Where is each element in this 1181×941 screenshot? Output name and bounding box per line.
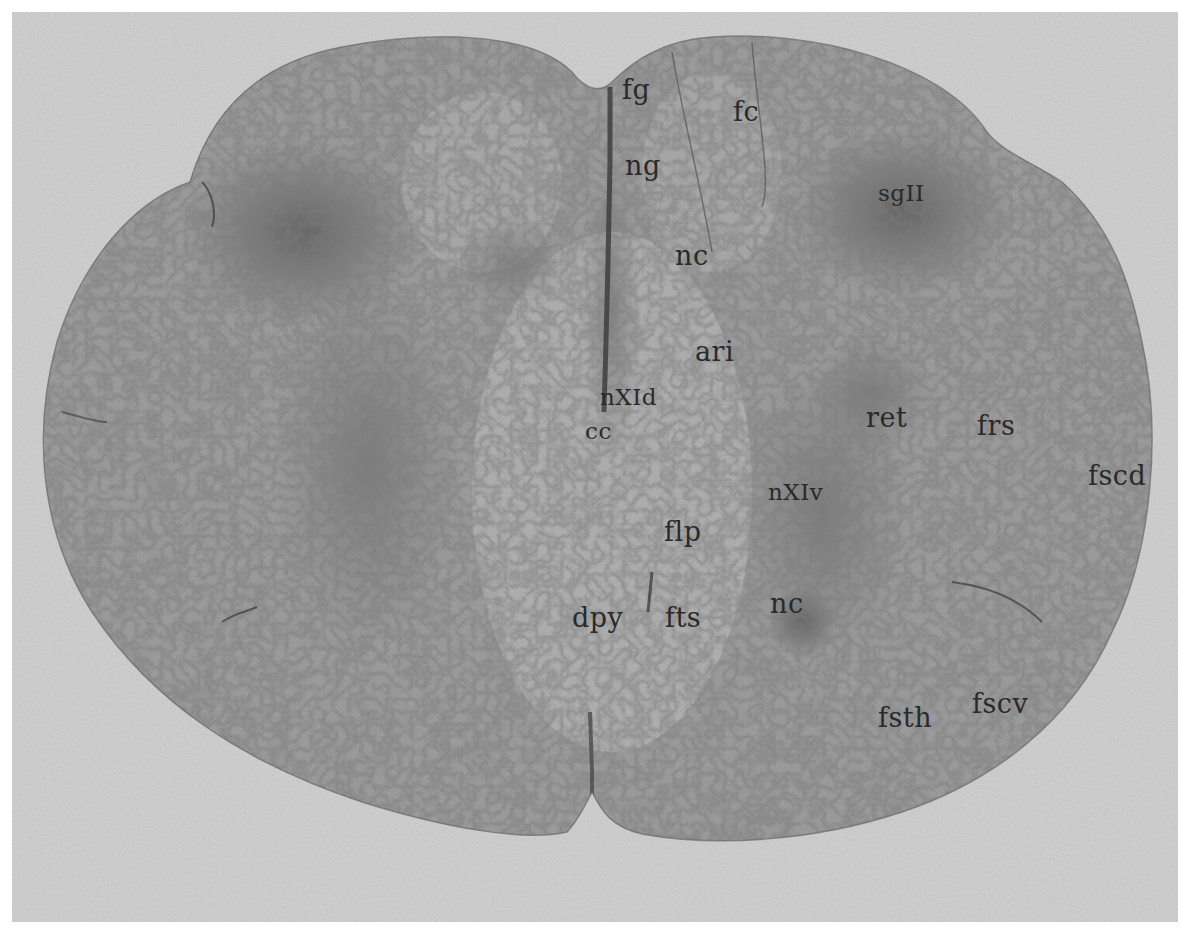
label-fc: fc [733,98,759,125]
label-ng: ng [625,152,661,179]
micrograph: fg fc ng sgII nc ari nXId cc ret frs fsc… [12,12,1178,922]
label-dpy: dpy [572,604,623,631]
label-sgII: sgII [878,182,925,205]
label-frs: frs [977,412,1015,439]
label-nXIv: nXIv [768,481,823,504]
label-fscd: fscd [1088,462,1146,489]
label-fsth: fsth [878,704,932,731]
label-ret: ret [866,404,907,431]
label-fts: fts [665,604,701,631]
label-cc: cc [585,420,612,443]
label-fscv: fscv [972,690,1028,717]
label-nc-ventral: nc [770,590,804,617]
label-flp: flp [664,518,701,545]
tissue-section-graphic [12,12,1178,922]
label-fg: fg [622,76,650,103]
label-ari: ari [695,338,734,365]
label-nXId: nXId [600,386,657,409]
label-nc-dorsal: nc [675,242,709,269]
